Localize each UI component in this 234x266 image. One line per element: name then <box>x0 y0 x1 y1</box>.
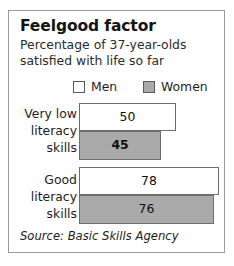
category-label-good-literacy: Good literacy skills <box>11 171 77 222</box>
chart-subtitle: Percentage of 37-year-olds satisfied wit… <box>20 37 186 68</box>
bar-value-women-good-literacy: 76 <box>139 203 155 215</box>
category-label-line-2: literacy <box>11 122 77 139</box>
category-label-very-low-literacy: Very low literacy skills <box>11 105 77 156</box>
chart-subtitle-line-2: satisfied with life so far <box>20 53 186 69</box>
bar-group-very-low-literacy: Very low literacy skills 50 45 <box>9 103 224 159</box>
chart-legend: Men Women <box>20 79 216 97</box>
legend-label-men: Men <box>91 79 117 94</box>
chart-card: Feelgood factor Percentage of 37-year-ol… <box>8 10 225 253</box>
infographic-page: Feelgood factor Percentage of 37-year-ol… <box>0 0 234 266</box>
white-square-icon <box>73 81 85 93</box>
bar-group-good-literacy: Good literacy skills 78 76 <box>9 167 224 225</box>
chart-title: Feelgood factor <box>20 17 156 35</box>
bar-women-good-literacy: 76 <box>79 195 214 224</box>
gray-square-icon <box>143 81 155 93</box>
bar-men-very-low-literacy: 50 <box>79 103 176 131</box>
legend-item-men[interactable]: Men <box>73 79 117 94</box>
category-label-line-2: literacy <box>11 188 77 205</box>
bar-value-men-very-low-literacy: 50 <box>120 111 136 123</box>
bar-value-women-very-low-literacy: 45 <box>111 139 128 151</box>
bar-value-men-good-literacy: 78 <box>141 175 157 187</box>
bar-men-good-literacy: 78 <box>79 167 219 195</box>
category-label-line-3: skills <box>11 205 77 222</box>
chart-subtitle-line-1: Percentage of 37-year-olds <box>20 37 186 53</box>
chart-source: Source: Basic Skills Agency <box>20 229 179 243</box>
legend-item-women[interactable]: Women <box>143 79 208 94</box>
category-label-line-3: skills <box>11 139 77 156</box>
legend-label-women: Women <box>161 79 208 94</box>
category-label-line-1: Good <box>11 171 77 188</box>
bar-women-very-low-literacy: 45 <box>79 131 161 160</box>
category-label-line-1: Very low <box>11 105 77 122</box>
